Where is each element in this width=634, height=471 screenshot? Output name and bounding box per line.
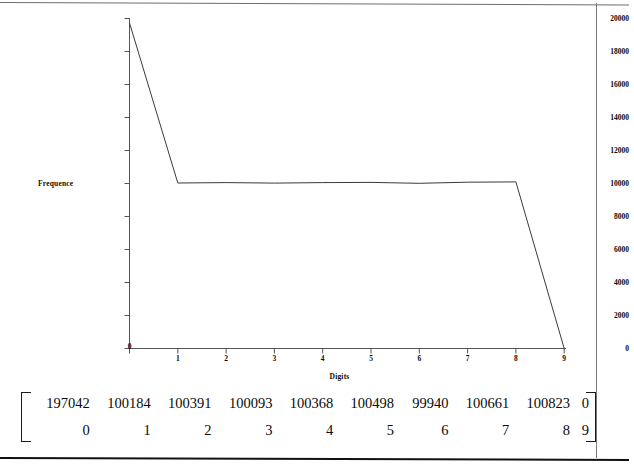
- y-axis-title: Frequence: [38, 179, 73, 188]
- x-tick-label-9: 9: [554, 354, 574, 363]
- y-axis-ticks: [125, 19, 130, 349]
- x-tick-label-6: 6: [409, 354, 429, 363]
- table-row-digits: 0 1 2 3 4 5 6 7 8 9: [32, 417, 592, 444]
- matrix-table: 197042 100184 100391 100093 100368 10049…: [32, 390, 592, 444]
- x-tick-label-3: 3: [264, 354, 284, 363]
- y-tick-label-14000: 14000: [507, 113, 629, 122]
- matrix-count-4: 100368: [275, 390, 336, 417]
- matrix-count-6: 99940: [397, 390, 451, 417]
- y-tick-label-6000: 6000: [507, 245, 629, 254]
- matrix-count-1: 100184: [93, 390, 154, 417]
- x-tick-label-1: 1: [168, 354, 188, 363]
- x-tick-label-4: 4: [313, 354, 333, 363]
- x-tick-label-2: 2: [216, 354, 236, 363]
- y-tick-label-8000: 8000: [507, 212, 629, 221]
- x-tick-label-0: 0: [120, 342, 140, 351]
- matrix-digit-4: 4: [275, 417, 336, 444]
- matrix-digit-7: 7: [451, 417, 512, 444]
- matrix-count-0: 197042: [32, 390, 93, 417]
- matrix-digit-8: 8: [512, 417, 573, 444]
- y-tick-label-0: 0: [507, 344, 629, 353]
- matrix-count-9: 0: [573, 390, 592, 417]
- x-axis-ticks: [130, 349, 565, 354]
- matrix-digit-9: 9: [573, 417, 592, 444]
- chart-canvas: [0, 0, 629, 390]
- matrix-count-3: 100093: [215, 390, 276, 417]
- frequency-line-chart: Frequence 0 2000 4000 6000 8000 10000 12…: [0, 0, 629, 390]
- matrix-count-7: 100661: [451, 390, 512, 417]
- y-tick-label-2000: 2000: [507, 311, 629, 320]
- matrix-bracket-left-icon: [21, 392, 31, 442]
- table-row-counts: 197042 100184 100391 100093 100368 10049…: [32, 390, 592, 417]
- matrix-digit-2: 2: [154, 417, 215, 444]
- y-tick-label-12000: 12000: [507, 146, 629, 155]
- matrix-count-2: 100391: [154, 390, 215, 417]
- y-tick-label-20000: 20000: [507, 14, 629, 23]
- matrix-count-8: 100823: [512, 390, 573, 417]
- matrix-digit-1: 1: [93, 417, 154, 444]
- y-tick-label-16000: 16000: [507, 80, 629, 89]
- y-tick-label-18000: 18000: [507, 47, 629, 56]
- matrix-digit-0: 0: [32, 417, 93, 444]
- frequency-matrix: 197042 100184 100391 100093 100368 10049…: [20, 390, 596, 444]
- matrix-digit-6: 6: [397, 417, 451, 444]
- x-axis-title: Digits: [0, 372, 634, 381]
- frequency-data-line: [130, 23, 565, 349]
- x-tick-label-8: 8: [506, 354, 526, 363]
- matrix-count-5: 100498: [336, 390, 397, 417]
- matrix-digit-5: 5: [336, 417, 397, 444]
- matrix-digit-3: 3: [215, 417, 276, 444]
- y-tick-label-4000: 4000: [507, 278, 629, 287]
- x-tick-label-5: 5: [361, 354, 381, 363]
- y-tick-label-10000: 10000: [507, 179, 629, 188]
- page-rule-bottom: [0, 457, 629, 461]
- x-tick-label-7: 7: [458, 354, 478, 363]
